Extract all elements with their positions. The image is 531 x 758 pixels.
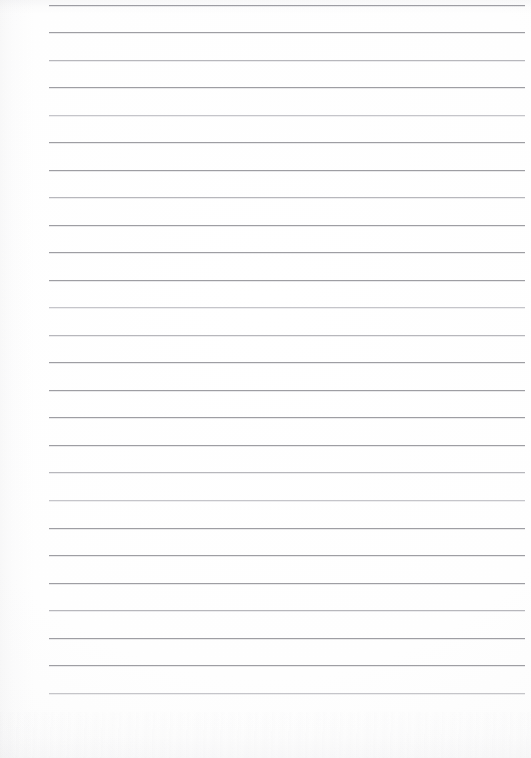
- rule-line: [49, 197, 525, 198]
- rule-line: [49, 32, 525, 33]
- rule-line: [49, 170, 525, 171]
- ruled-writing-area: [0, 0, 531, 758]
- rule-line: [49, 445, 525, 446]
- scanned-page: [0, 0, 531, 758]
- rule-line: [49, 115, 525, 116]
- rule-line: [49, 225, 525, 226]
- rule-line: [49, 500, 525, 501]
- rule-line: [49, 362, 525, 363]
- rule-line: [49, 142, 525, 143]
- rule-line: [49, 280, 525, 281]
- rule-line: [49, 638, 525, 639]
- rule-line: [49, 610, 525, 611]
- rule-line: [49, 583, 525, 584]
- rule-line: [49, 87, 525, 88]
- rule-line: [49, 335, 525, 336]
- rule-line: [49, 693, 525, 694]
- rule-line: [49, 665, 525, 666]
- rule-line: [49, 390, 525, 391]
- rule-line: [49, 472, 525, 473]
- rule-line: [49, 252, 525, 253]
- rule-line: [49, 528, 525, 529]
- rule-line: [49, 555, 525, 556]
- rule-line: [49, 417, 525, 418]
- rule-line: [49, 60, 525, 61]
- rule-line: [49, 307, 525, 308]
- rule-line: [49, 5, 525, 6]
